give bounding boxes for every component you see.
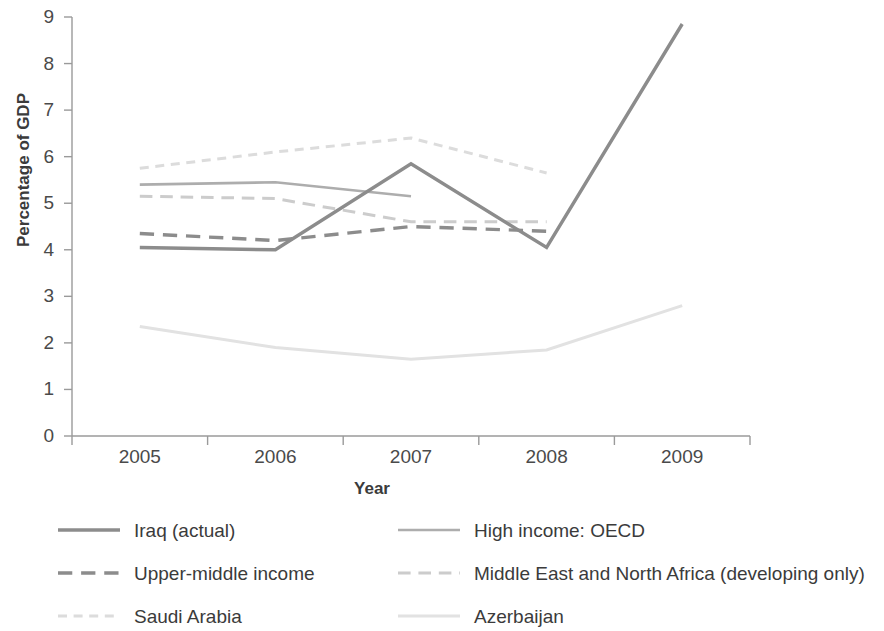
legend-line-swatch [398,609,460,623]
series-line [140,138,547,173]
chart-legend: Iraq (actual)Upper-middle incomeSaudi Ar… [0,505,884,621]
legend-item[interactable]: Saudi Arabia [58,599,398,631]
legend-label: Saudi Arabia [134,607,242,626]
series-line [140,227,547,241]
legend-item[interactable]: Azerbaijan [398,599,884,631]
chart-canvas [0,0,884,505]
legend-item[interactable]: Iraq (actual) [58,513,398,547]
legend-line-swatch [398,566,460,580]
legend-label: Iraq (actual) [134,521,235,540]
x-axis-title: Year [0,479,884,499]
x-axis-title-text: Year [354,479,390,498]
legend-line-swatch [398,523,460,537]
legend-line-swatch [58,566,120,580]
legend-label: Upper-middle income [134,564,315,583]
legend-label: High income: OECD [474,521,645,540]
legend-item[interactable]: Middle East and North Africa (developing… [398,556,884,590]
legend-label: Middle East and North Africa (developing… [474,564,865,583]
legend-label: Azerbaijan [474,607,564,626]
legend-item[interactable]: High income: OECD [398,513,884,547]
legend-line-swatch [58,523,120,537]
plot-area: Percentage of GDP 0123456789 20052006200… [0,0,884,505]
legend-item[interactable]: Upper-middle income [58,556,398,590]
legend-line-swatch [58,609,120,623]
series-line [140,306,682,360]
